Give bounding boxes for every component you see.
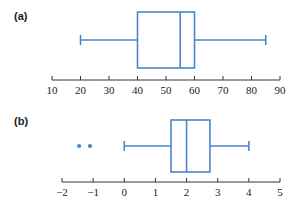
x-tick-label: 5 [277, 186, 283, 198]
x-tick-label: 40 [132, 84, 143, 96]
outlier-point [88, 144, 92, 148]
x-tick-label: 50 [161, 84, 172, 96]
x-tick-label: 90 [275, 84, 286, 96]
x-tick-label: 60 [189, 84, 200, 96]
panel-a: (a) 102030405060708090 [0, 0, 301, 102]
x-tick-label: −2 [56, 186, 68, 198]
x-tick-label: 20 [75, 84, 86, 96]
x-tick-label: 1 [153, 186, 159, 198]
figure-root: (a) 102030405060708090 (b) −2−1012345 [0, 0, 301, 205]
box-iqr [171, 120, 210, 172]
panel-b-boxplot [0, 101, 301, 203]
box-iqr [138, 12, 195, 68]
x-tick-label: 70 [218, 84, 229, 96]
x-tick-label: 4 [246, 186, 252, 198]
panel-b: (b) −2−1012345 [0, 101, 301, 203]
x-tick-label: 80 [246, 84, 257, 96]
outlier-point [77, 144, 81, 148]
x-tick-label: 30 [104, 84, 115, 96]
x-tick-label: 0 [122, 186, 128, 198]
x-tick-label: 3 [215, 186, 221, 198]
x-tick-label: 2 [184, 186, 190, 198]
x-tick-label: −1 [87, 186, 99, 198]
x-tick-label: 10 [47, 84, 58, 96]
